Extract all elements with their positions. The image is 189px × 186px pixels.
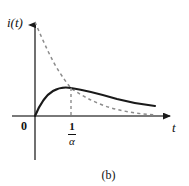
- dashed-decay-curve: [35, 22, 156, 115]
- x-tick-label-one-over-alpha: 1 α: [63, 121, 81, 147]
- fraction-one-over-alpha: 1 α: [68, 121, 76, 147]
- fraction-denominator: α: [68, 136, 76, 148]
- figure-container: i(t) t 0 1 α (b): [0, 0, 189, 186]
- figure-caption-text: (b): [102, 168, 116, 183]
- fraction-numerator: 1: [68, 121, 76, 133]
- origin-label: 0: [21, 120, 27, 132]
- x-axis-label: t: [172, 121, 176, 134]
- plot-canvas: [0, 0, 189, 186]
- figure-caption: (b): [0, 168, 189, 183]
- y-axis-label: i(t): [7, 16, 23, 29]
